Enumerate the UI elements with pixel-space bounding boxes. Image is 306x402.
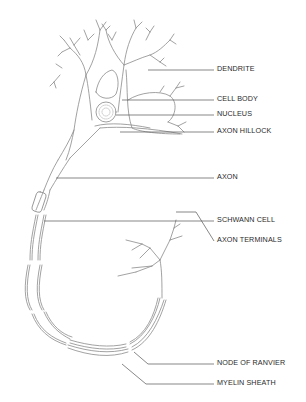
label-nucleus: NUCLEUS [217,110,252,118]
label-schwann-cell: SCHWANN CELL [217,216,275,224]
axon [44,158,70,190]
label-axon-terminals: AXON TERMINALS [217,236,282,244]
myelin-sheath [25,190,166,355]
label-node-of-ranvier: NODE OF RANVIER [217,359,285,367]
neuron-diagram: DENDRITE CELL BODY NUCLEUS AXON HILLOCK … [0,0,306,402]
label-dendrite: DENDRITE [217,65,255,73]
label-cell-body: CELL BODY [217,95,258,103]
label-axon: AXON [217,173,238,181]
label-myelin-sheath: MYELIN SHEATH [217,379,276,387]
neuron-illustration [0,0,306,402]
label-axon-hillock: AXON HILLOCK [217,127,271,135]
axon-hillock [58,124,182,160]
axon-terminals [118,220,182,298]
